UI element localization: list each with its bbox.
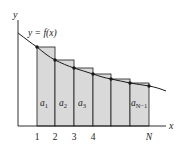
point-3	[72, 66, 75, 69]
rectangle-4	[93, 74, 111, 126]
y-axis-label: y	[12, 9, 18, 20]
x-tick-N: N	[145, 132, 153, 142]
point-N	[147, 84, 150, 87]
point-6	[128, 81, 131, 84]
x-tick-3: 3	[72, 132, 77, 142]
rectangle-5	[111, 79, 130, 126]
x-axis-label: x	[168, 120, 174, 131]
rectangle-3	[74, 68, 93, 126]
rectangle-2	[55, 60, 74, 126]
point-2	[53, 58, 56, 61]
point-4	[91, 72, 94, 75]
x-tick-1: 1	[35, 132, 40, 142]
x-tick-4: 4	[91, 132, 96, 142]
x-tick-labels: 1 2 3 4 N	[35, 132, 153, 142]
curve-label: y = f(x)	[27, 28, 57, 39]
point-1	[35, 45, 38, 48]
x-tick-2: 2	[53, 132, 58, 142]
left-endpoint-rectangles-diagram: y x y = f(x) 1 2 3 4 N a1 a2 a3 aN−1	[0, 0, 187, 149]
point-5	[109, 77, 112, 80]
